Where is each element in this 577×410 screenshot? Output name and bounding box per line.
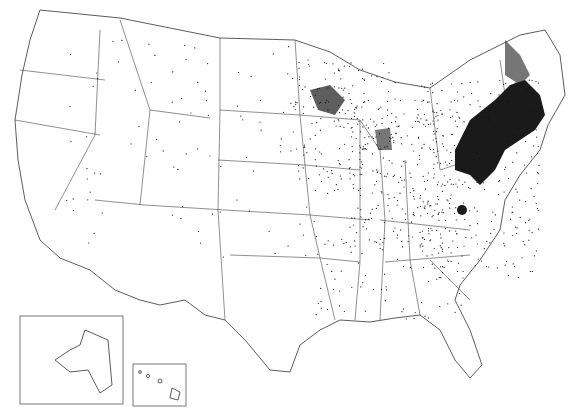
us-dot-density-map — [0, 0, 577, 410]
virginia-cluster — [457, 205, 467, 215]
hawaii-inset — [133, 364, 186, 406]
alaska-inset — [20, 316, 123, 404]
hawaii-kauai — [139, 371, 142, 374]
hawaii-maui — [158, 379, 162, 383]
hawaii-oahu — [146, 374, 149, 377]
great-lakes-cluster — [375, 128, 392, 150]
